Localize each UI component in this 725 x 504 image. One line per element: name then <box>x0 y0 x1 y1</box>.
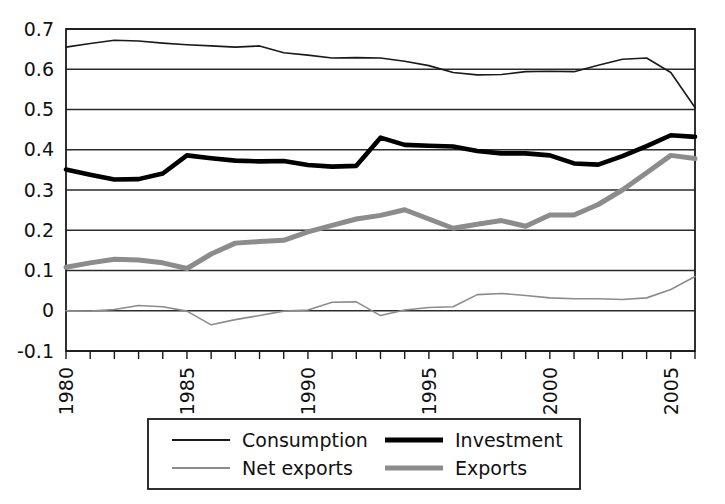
x-axis-tick-label: 2005 <box>660 367 682 415</box>
y-axis-tick-label: 0.2 <box>24 219 54 241</box>
y-axis-tick-label: 0 <box>42 299 54 321</box>
y-axis-tick-label: 0.4 <box>24 138 54 160</box>
legend-label: Exports <box>455 457 527 479</box>
legend-label: Consumption <box>242 429 368 451</box>
x-axis-tick-label: 1990 <box>297 367 319 415</box>
x-axis-tick-label: 1985 <box>176 367 198 415</box>
y-axis-tick-label: 0.5 <box>24 98 54 120</box>
y-axis-tick-label: 0.7 <box>24 18 54 40</box>
chart-container: 0.70.60.50.40.30.20.10-0.1 1980198519901… <box>0 0 725 504</box>
legend-label: Net exports <box>242 457 353 479</box>
y-axis-tick-label: -0.1 <box>17 340 54 362</box>
x-axis-tick-label: 2000 <box>539 367 561 415</box>
y-axis-tick-label: 0.6 <box>24 58 54 80</box>
y-axis-tick-label: 0.3 <box>24 179 54 201</box>
x-axis-tick-label: 1995 <box>418 367 440 415</box>
x-axis-tick-label: 1980 <box>55 367 77 415</box>
chart-legend: ConsumptionInvestmentNet exportsExports <box>148 419 580 489</box>
legend-label: Investment <box>455 429 563 451</box>
line-chart: 0.70.60.50.40.30.20.10-0.1 1980198519901… <box>0 0 725 504</box>
y-axis-tick-label: 0.1 <box>24 259 54 281</box>
